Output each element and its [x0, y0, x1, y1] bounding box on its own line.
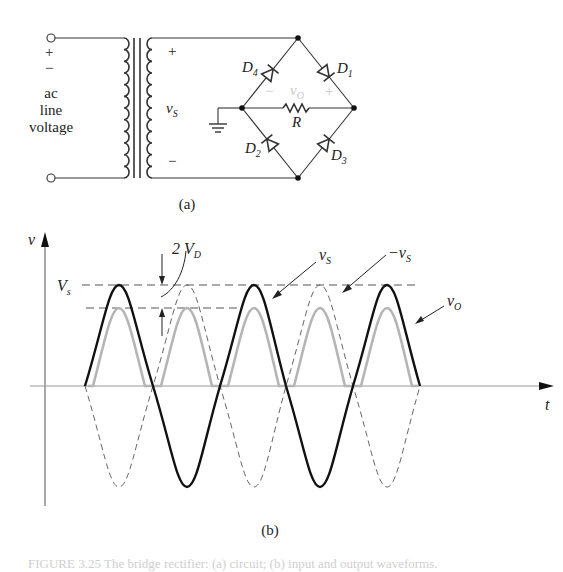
- node-left: [239, 105, 245, 111]
- secondary-coil-icon: [147, 38, 152, 178]
- x-axis-label: t: [545, 396, 550, 413]
- part-a-label: (a): [179, 196, 196, 213]
- node-top: [295, 35, 301, 41]
- y-axis-arrow-icon: [41, 232, 49, 247]
- vo-label: vO: [447, 292, 461, 312]
- diode-d4-icon: [261, 65, 279, 82]
- circuit-diagram: [47, 34, 357, 182]
- vo-pointer-arrow-icon: [415, 316, 424, 324]
- input-terminal-top: [47, 34, 55, 42]
- neg-vs-pointer-line: [345, 255, 386, 290]
- diode-d1-icon: [317, 64, 335, 81]
- secondary-minus-label: −: [168, 153, 176, 169]
- diode-d3-label: D3: [330, 147, 347, 166]
- vo-waveform: [88, 308, 418, 386]
- input-terminal-bottom: [47, 174, 55, 182]
- output-plus-label: +: [325, 83, 333, 99]
- vs-label: vS: [319, 246, 331, 266]
- input-plus-label: +: [45, 44, 53, 60]
- input-label-voltage: voltage: [29, 119, 73, 135]
- input-label-line: line: [40, 102, 63, 118]
- secondary-voltage-label: vS: [166, 100, 178, 119]
- diode-d1-label: D1: [336, 60, 353, 79]
- input-label-ac: ac: [44, 85, 58, 101]
- diode-d2-icon: [261, 135, 279, 152]
- drop-arrow-top-head-icon: [159, 276, 165, 285]
- vs-pointer-line: [275, 262, 316, 296]
- resistor-label: R: [291, 114, 301, 130]
- drop-label: 2 VD: [172, 240, 202, 260]
- input-minus-label: −: [45, 60, 53, 76]
- diode-d2-label: D2: [244, 140, 261, 159]
- drop-arrow-bottom-head-icon: [159, 308, 165, 317]
- primary-coil-icon: [124, 38, 129, 178]
- circuit-labels: + − ac line voltage + − vS D4 D1 D2 D3 R…: [29, 43, 353, 213]
- output-minus-label: −: [265, 83, 273, 99]
- y-axis-label: v: [28, 231, 36, 248]
- secondary-plus-label: +: [168, 43, 176, 59]
- output-voltage-label: vO: [290, 82, 304, 101]
- peak-label: Vs: [57, 277, 71, 297]
- part-b-label: (b): [261, 522, 279, 539]
- waveform-plot: v t Vs 2 VD vS −vS vO (b): [28, 231, 554, 539]
- figure-caption: FIGURE 3.25 The bridge rectifier: (a) ci…: [28, 556, 438, 572]
- node-bottom: [295, 175, 301, 181]
- x-axis-arrow-icon: [539, 382, 554, 390]
- node-right: [351, 105, 357, 111]
- resistor-icon: [283, 104, 309, 112]
- drop-leader-line: [161, 251, 186, 297]
- diode-d4-label: D4: [241, 59, 258, 78]
- neg-vs-label: −vS: [388, 244, 411, 264]
